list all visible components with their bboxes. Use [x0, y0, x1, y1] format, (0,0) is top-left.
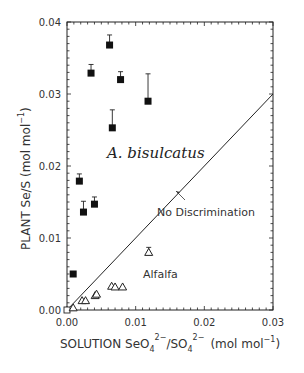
y-axis-label: PLANT Se/S (mol mol−1)	[17, 107, 33, 250]
data-points	[64, 35, 153, 313]
x-tick-label: 0.00	[56, 317, 78, 328]
square-marker-icon	[145, 98, 152, 105]
annotation-a-bisulcatus: A. bisulcatus	[105, 144, 205, 162]
x-tick-label: 0.01	[125, 317, 147, 328]
square-marker-icon	[88, 70, 95, 77]
y-tick-label: 0.01	[39, 233, 61, 244]
x-tick-label: 0.03	[262, 317, 284, 328]
y-tick-label: 0.00	[39, 305, 61, 316]
square-marker-icon	[70, 271, 77, 278]
square-marker-icon	[106, 42, 113, 49]
square-marker-icon	[91, 201, 98, 208]
square-marker-icon	[76, 178, 83, 185]
y-tick-label: 0.02	[39, 161, 61, 172]
x-axis-label: SOLUTION SeO42−/SO42−(mol mol−1)	[60, 333, 280, 354]
square-marker-icon	[117, 76, 124, 83]
plot-frame	[67, 22, 273, 310]
triangle-marker-icon	[145, 248, 153, 255]
scatter-chart: 0.000.010.020.030.000.010.020.030.04 A. …	[0, 0, 304, 373]
annotation-alfalfa: Alfalfa	[143, 268, 178, 281]
annotation-no-discrimination: No Discrimination	[157, 206, 255, 219]
square-marker-icon	[109, 124, 116, 131]
plot-border	[67, 22, 273, 310]
square-marker-icon	[80, 209, 87, 216]
y-tick-label: 0.03	[39, 89, 61, 100]
x-tick-label: 0.02	[193, 317, 215, 328]
y-tick-label: 0.04	[39, 17, 61, 28]
triangle-marker-icon	[119, 283, 127, 290]
axis-ticks: 0.000.010.020.030.000.010.020.030.04	[39, 17, 284, 328]
